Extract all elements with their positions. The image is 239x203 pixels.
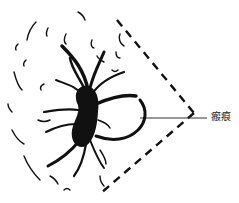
dashed-wedge-outline <box>101 20 194 193</box>
scar-label: 瘢痕 <box>211 111 231 123</box>
illustration-canvas <box>0 0 239 203</box>
scar-body <box>44 46 145 176</box>
scar-illustration: 瘢痕 <box>0 0 239 203</box>
